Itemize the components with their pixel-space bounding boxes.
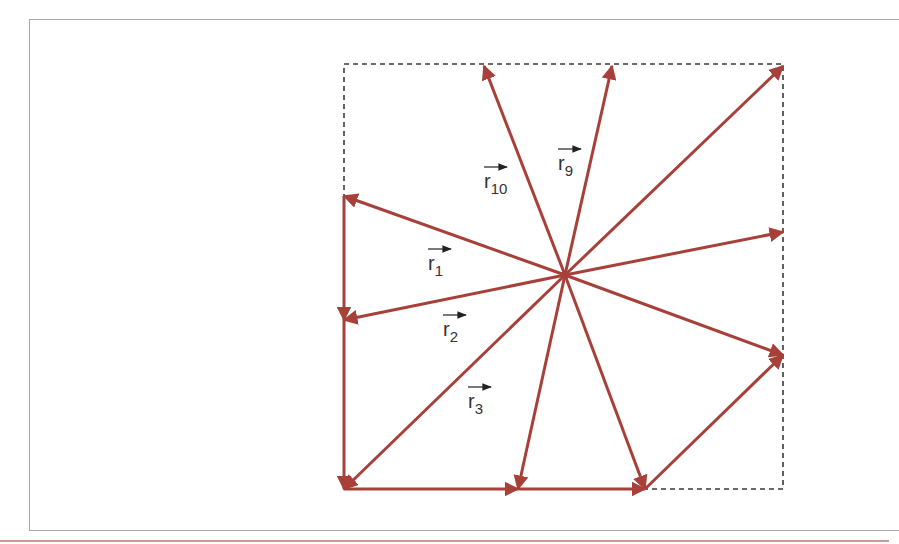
boundary-path-vectors [344, 196, 783, 489]
svg-text:r3: r3 [468, 390, 483, 417]
vector-r8 [565, 66, 783, 275]
origin-point [561, 271, 569, 279]
vector-r1 [344, 196, 565, 275]
vector-r7 [565, 232, 783, 275]
svg-text:r10: r10 [484, 170, 507, 197]
label-r9: r9 [558, 149, 581, 179]
radial-position-vectors [344, 66, 783, 489]
vector-r2 [344, 275, 565, 320]
vector-r5 [565, 275, 645, 489]
vector-r4 [518, 275, 565, 489]
vector-r6 [565, 275, 783, 355]
label-r1: r1 [428, 249, 451, 279]
vector-r10 [484, 66, 565, 275]
vector-r3 [344, 275, 565, 489]
svg-text:r1: r1 [428, 252, 443, 279]
path-vector-5 [645, 355, 783, 489]
label-r2: r2 [443, 315, 466, 345]
svg-text:r2: r2 [443, 318, 458, 345]
label-r10: r10 [484, 167, 507, 197]
label-r3: r3 [468, 387, 491, 417]
svg-text:r9: r9 [558, 152, 573, 179]
